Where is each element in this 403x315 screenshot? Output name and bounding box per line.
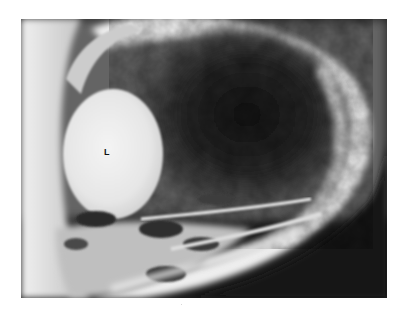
annotation-label-l: L <box>104 148 110 157</box>
air-cell-6 <box>198 193 234 205</box>
radiograph-svg <box>21 19 387 298</box>
scan-artifact <box>181 304 182 305</box>
air-cell-2 <box>139 220 183 238</box>
lesion-mass <box>63 89 163 219</box>
air-cell-1 <box>76 211 116 227</box>
texture-overlay <box>131 29 351 229</box>
air-cell-5 <box>64 238 88 250</box>
radiograph-image <box>21 19 387 298</box>
